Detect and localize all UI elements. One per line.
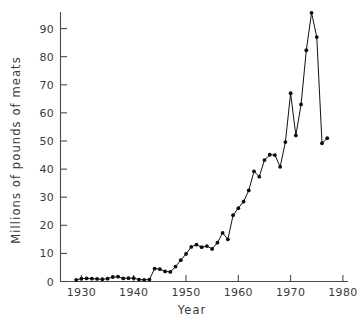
- data-point: [210, 247, 214, 251]
- data-point: [153, 267, 157, 271]
- y-tick-0: 0: [47, 276, 67, 289]
- data-point: [325, 136, 329, 140]
- data-point: [310, 11, 314, 15]
- data-point: [100, 277, 104, 281]
- data-point: [127, 276, 131, 280]
- data-point: [283, 140, 287, 144]
- y-tick-60: 60: [39, 107, 67, 120]
- data-point: [116, 275, 120, 279]
- data-point: [216, 241, 220, 245]
- y-tick-90: 90: [39, 23, 67, 36]
- x-tick-label: 1950: [171, 286, 200, 299]
- y-tick-label: 20: [39, 219, 54, 232]
- y-tick-label: 10: [39, 247, 54, 260]
- y-tick-40: 40: [39, 163, 67, 176]
- y-tick-label: 30: [39, 191, 54, 204]
- x-axis-title: Year: [177, 303, 207, 317]
- data-point: [85, 277, 89, 281]
- data-point: [231, 213, 235, 217]
- data-point: [95, 277, 99, 281]
- data-point: [111, 275, 115, 279]
- data-point: [179, 258, 183, 262]
- data-point: [106, 277, 110, 281]
- y-tick-label: 70: [39, 79, 54, 92]
- y-tick-50: 50: [39, 135, 67, 148]
- y-tick-label: 50: [39, 135, 54, 148]
- data-point: [195, 243, 199, 247]
- data-point: [137, 278, 141, 282]
- y-axis-title: Millions of pounds of meats: [9, 56, 23, 244]
- x-tick-1980: 1980: [328, 275, 357, 299]
- data-point: [142, 278, 146, 282]
- data-point: [257, 175, 261, 179]
- x-tick-label: 1940: [119, 286, 148, 299]
- series-line: [76, 13, 327, 280]
- y-tick-70: 70: [39, 79, 67, 92]
- data-point: [121, 277, 125, 281]
- y-tick-80: 80: [39, 51, 67, 64]
- y-axis-ticks: 0 10 20 30 40 50: [39, 23, 67, 289]
- data-point: [304, 48, 308, 52]
- line-chart: 0 10 20 30 40 50: [0, 0, 361, 320]
- data-point: [80, 277, 84, 281]
- data-point: [158, 267, 162, 271]
- x-tick-label: 1980: [328, 286, 357, 299]
- x-axis-ticks: 1930 1940 1950 1960 1970 1980: [67, 275, 358, 299]
- x-tick-label: 1960: [224, 286, 253, 299]
- y-tick-label: 90: [39, 23, 54, 36]
- data-point: [242, 200, 246, 204]
- data-point: [174, 265, 178, 269]
- data-point: [90, 277, 94, 281]
- x-tick-1950: 1950: [171, 275, 200, 299]
- data-point: [74, 278, 78, 282]
- data-point: [278, 165, 282, 169]
- data-point: [236, 206, 240, 210]
- data-point: [252, 169, 256, 173]
- data-point: [221, 231, 225, 235]
- data-point: [163, 269, 167, 273]
- y-tick-10: 10: [39, 247, 67, 260]
- data-point: [205, 244, 209, 248]
- y-tick-label: 80: [39, 51, 54, 64]
- data-point: [189, 245, 193, 249]
- chart-figure: 0 10 20 30 40 50: [0, 0, 361, 320]
- x-tick-label: 1930: [67, 286, 96, 299]
- data-point: [273, 153, 277, 157]
- data-point: [268, 153, 272, 157]
- y-tick-label: 40: [39, 163, 54, 176]
- data-point: [315, 35, 319, 39]
- y-tick-20: 20: [39, 219, 67, 232]
- data-point: [184, 252, 188, 256]
- series-markers: [74, 11, 329, 282]
- y-tick-label: 60: [39, 107, 54, 120]
- data-point: [294, 133, 298, 137]
- data-point: [148, 278, 152, 282]
- data-point: [289, 91, 293, 95]
- data-point: [247, 189, 251, 193]
- data-point: [168, 270, 172, 274]
- x-tick-1960: 1960: [224, 275, 253, 299]
- data-point: [132, 276, 136, 280]
- data-point: [299, 103, 303, 107]
- data-point: [226, 237, 230, 241]
- x-tick-label: 1970: [276, 286, 305, 299]
- data-point: [263, 158, 267, 162]
- x-tick-1970: 1970: [276, 275, 305, 299]
- data-point: [200, 245, 204, 249]
- y-tick-label: 0: [47, 276, 54, 289]
- y-tick-30: 30: [39, 191, 67, 204]
- data-point: [320, 141, 324, 145]
